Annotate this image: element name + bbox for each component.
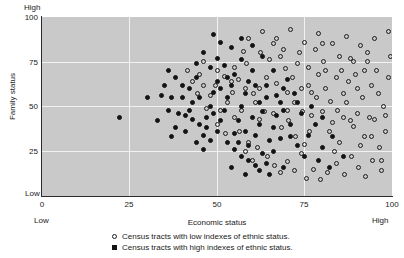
- data-point: [377, 145, 382, 150]
- data-point: [365, 59, 370, 64]
- data-point: [323, 68, 328, 73]
- data-point: [239, 104, 244, 109]
- data-point: [341, 154, 346, 159]
- data-point: [381, 104, 386, 109]
- data-point: [250, 115, 255, 120]
- data-point: [339, 68, 344, 73]
- data-point: [295, 100, 300, 105]
- gridline-y-75: [42, 62, 392, 63]
- data-point: [197, 95, 202, 100]
- data-point: [341, 91, 346, 96]
- data-point: [162, 83, 167, 88]
- data-point: [257, 117, 262, 122]
- data-point: [208, 104, 213, 109]
- data-point: [185, 68, 190, 73]
- gridline-y-50: [42, 106, 392, 107]
- data-point: [285, 77, 290, 82]
- data-point: [190, 117, 195, 122]
- x-tick-label-100: 100: [377, 200, 404, 209]
- data-point: [383, 113, 388, 118]
- legend-item-high-ethnic: Census tracts with high indexes of ethni…: [112, 242, 293, 253]
- data-point: [316, 31, 321, 36]
- data-point: [281, 108, 286, 113]
- data-point: [320, 145, 325, 150]
- data-point: [264, 161, 269, 166]
- data-point: [271, 125, 276, 130]
- data-point: [155, 118, 160, 123]
- data-point: [271, 41, 276, 46]
- data-point: [243, 172, 248, 177]
- data-point: [215, 56, 220, 61]
- data-point: [321, 59, 326, 64]
- data-point: [379, 158, 384, 163]
- data-point: [180, 95, 185, 100]
- data-point: [386, 29, 391, 34]
- data-point: [285, 159, 290, 164]
- data-point: [367, 115, 372, 120]
- data-point: [215, 79, 220, 84]
- legend-label-low-ethnic: Census tracts with low indexes of ethnic…: [122, 232, 290, 241]
- data-point: [222, 108, 227, 113]
- data-point: [344, 100, 349, 105]
- data-point: [272, 163, 277, 168]
- data-point: [288, 27, 293, 32]
- data-point: [274, 113, 279, 118]
- data-point: [309, 90, 314, 95]
- data-point: [201, 133, 206, 138]
- data-point: [176, 111, 181, 116]
- data-point: [278, 100, 283, 105]
- x-tick-label-25: 25: [114, 200, 144, 209]
- data-point: [337, 140, 342, 145]
- data-point: [229, 165, 234, 170]
- data-point: [271, 68, 276, 73]
- data-point: [302, 40, 307, 45]
- data-point: [243, 129, 248, 134]
- data-point: [330, 41, 335, 46]
- data-point: [302, 154, 307, 159]
- data-point: [197, 122, 202, 127]
- x-axis-high-label: High: [372, 216, 388, 225]
- data-point: [267, 172, 272, 177]
- legend-label-high-ethnic: Census tracts with high indexes of ethni…: [122, 243, 293, 252]
- data-point: [306, 83, 311, 88]
- data-point: [362, 68, 367, 73]
- y-tick-label-50: 50: [8, 102, 38, 111]
- data-point: [274, 81, 279, 86]
- data-point: [260, 151, 265, 156]
- data-point: [187, 108, 192, 113]
- data-point: [190, 79, 195, 84]
- data-point: [295, 61, 300, 66]
- data-point: [246, 158, 251, 163]
- data-point: [365, 50, 370, 55]
- data-point: [251, 91, 256, 96]
- data-point: [166, 108, 171, 113]
- data-point: [355, 111, 360, 116]
- data-point: [320, 109, 325, 114]
- data-point: [257, 100, 262, 105]
- data-point: [232, 65, 237, 70]
- data-point: [316, 72, 321, 77]
- data-point: [335, 108, 340, 113]
- data-point: [218, 86, 223, 91]
- data-point: [344, 34, 349, 39]
- data-point: [349, 154, 354, 159]
- data-point: [325, 170, 330, 175]
- data-point: [230, 90, 235, 95]
- data-point: [253, 83, 258, 88]
- data-point: [211, 32, 216, 37]
- y-axis-low-label: Low: [25, 189, 40, 198]
- data-point: [348, 118, 353, 123]
- data-point: [243, 86, 248, 91]
- data-point: [299, 86, 304, 91]
- data-point: [313, 122, 318, 127]
- data-point: [293, 134, 298, 139]
- data-point: [271, 149, 276, 154]
- data-point: [201, 59, 206, 64]
- data-point: [201, 83, 206, 88]
- data-point: [311, 167, 316, 172]
- data-point: [372, 36, 377, 41]
- data-point: [358, 43, 363, 48]
- data-point: [386, 75, 391, 80]
- data-point: [341, 115, 346, 120]
- data-point: [278, 54, 283, 59]
